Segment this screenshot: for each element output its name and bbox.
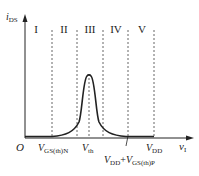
- region-label-5: V: [138, 23, 146, 35]
- tick-vdd: VDD: [146, 142, 162, 155]
- tick-vth: Vth: [82, 142, 94, 155]
- cmos-inverter-current-diagram: iDS I II III IV V O VGS(th)N Vth VDD+VGS…: [0, 0, 199, 176]
- tick-vgs-th-n: VGS(th)N: [38, 142, 68, 155]
- tick-vdd-plus-vgs-th-p: VDD+VGS(th)P: [104, 154, 155, 167]
- x-axis-arrow-icon: [186, 136, 194, 141]
- origin-label: O: [16, 141, 24, 153]
- region-label-4: IV: [110, 23, 122, 35]
- current-curve: [25, 75, 154, 137]
- y-axis-arrow-icon: [23, 14, 28, 22]
- x-axis-label: vI: [179, 140, 187, 154]
- region-label-3: III: [85, 23, 96, 35]
- region-label-2: II: [60, 23, 68, 35]
- region-label-1: I: [34, 23, 38, 35]
- y-axis-label: iDS: [6, 11, 18, 24]
- region-boundaries: [52, 30, 154, 138]
